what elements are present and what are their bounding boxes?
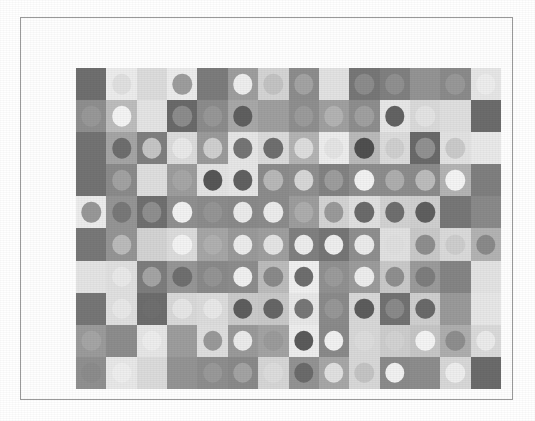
grid-cell-dot (233, 234, 252, 255)
grid-cell (289, 261, 319, 293)
grid-cell (471, 325, 501, 357)
grid-cell-dot (112, 138, 131, 159)
grid-cell-dot (233, 363, 252, 384)
grid-cell (106, 228, 136, 260)
grid-cell (228, 261, 258, 293)
grid-cell-dot (203, 170, 222, 191)
grid-cell-dot (112, 234, 131, 255)
grid-cell (167, 261, 197, 293)
grid-cell-dot (294, 138, 313, 159)
grid-cell-dot (476, 331, 495, 352)
grid-cell (258, 325, 288, 357)
grid-cell (106, 261, 136, 293)
grid-cell (197, 293, 227, 325)
grid-cell (440, 100, 470, 132)
grid-cell (76, 164, 106, 196)
grid-cell (76, 132, 106, 164)
grid-cell-dot (264, 202, 283, 223)
grid-cell (410, 357, 440, 389)
grid-cell-dot (81, 363, 100, 384)
grid-cell-dot (324, 202, 343, 223)
grid-cell (380, 293, 410, 325)
grid-cell-dot (446, 234, 465, 255)
grid-cell (167, 68, 197, 100)
grid-cell (380, 228, 410, 260)
grid-cell (319, 68, 349, 100)
grid-cell-dot (385, 106, 404, 127)
grid-cell (197, 228, 227, 260)
grid-cell (410, 68, 440, 100)
grid-cell (410, 293, 440, 325)
grid-cell-dot (355, 202, 374, 223)
grid-cell (471, 68, 501, 100)
grid-cell-dot (112, 266, 131, 287)
grid-cell-dot (294, 106, 313, 127)
grid-cell (440, 196, 470, 228)
grid-cell-dot (203, 363, 222, 384)
grid-cell-dot (264, 170, 283, 191)
grid-cell-dot (385, 202, 404, 223)
grid-cell (440, 228, 470, 260)
grid-cell-dot (112, 170, 131, 191)
grid-cell-dot (294, 202, 313, 223)
grid-cell (137, 68, 167, 100)
grid-cell (471, 261, 501, 293)
grid-cell (197, 68, 227, 100)
grid-cell (471, 228, 501, 260)
grid-cell (440, 68, 470, 100)
grid-cell (471, 196, 501, 228)
grid-cell-dot (385, 138, 404, 159)
grid-cell-dot (294, 298, 313, 319)
grid-cell (167, 164, 197, 196)
grid-cell (228, 132, 258, 164)
grid-cell (197, 261, 227, 293)
grid-cell (440, 325, 470, 357)
grid-cell-dot (173, 298, 192, 319)
grid-cell (167, 357, 197, 389)
grid-cell-dot (264, 363, 283, 384)
grid-cell-dot (415, 106, 434, 127)
grid-cell (349, 164, 379, 196)
grid-cell-dot (233, 298, 252, 319)
grid-cell-dot (233, 202, 252, 223)
grid-cell (349, 196, 379, 228)
grid-cell (319, 261, 349, 293)
grid-cell-dot (81, 202, 100, 223)
grid-cell-dot (173, 106, 192, 127)
grid-cell (471, 132, 501, 164)
grid-cell (137, 100, 167, 132)
grid-cell (349, 261, 379, 293)
grid-cell (106, 164, 136, 196)
grid-cell-dot (355, 74, 374, 95)
grid-cell-dot (81, 106, 100, 127)
grid-cell (289, 132, 319, 164)
grid-cell (76, 357, 106, 389)
grid-cell (228, 196, 258, 228)
grid-cell-dot (415, 331, 434, 352)
grid-cell-dot (233, 106, 252, 127)
grid-cell-dot (385, 74, 404, 95)
grid-cell-dot (476, 234, 495, 255)
grid-cell-dot (264, 234, 283, 255)
grid-cell (137, 357, 167, 389)
grid-cell-dot (81, 331, 100, 352)
grid-cell (349, 293, 379, 325)
grid-cell-dot (294, 170, 313, 191)
grid-cell-dot (324, 298, 343, 319)
grid-cell (319, 228, 349, 260)
grid-cell-dot (324, 331, 343, 352)
grid-cell (106, 196, 136, 228)
grid-cell (106, 68, 136, 100)
grid-cell (410, 261, 440, 293)
grid-canvas (76, 68, 501, 389)
grid-cell (258, 293, 288, 325)
grid-cell-dot (446, 331, 465, 352)
grid-cell-dot (233, 331, 252, 352)
grid-cell-dot (112, 74, 131, 95)
grid-cell (410, 164, 440, 196)
grid-cell-dot (415, 266, 434, 287)
grid-cell (319, 293, 349, 325)
grid-cell (197, 325, 227, 357)
grid-cell-dot (112, 363, 131, 384)
grid-cell (197, 357, 227, 389)
